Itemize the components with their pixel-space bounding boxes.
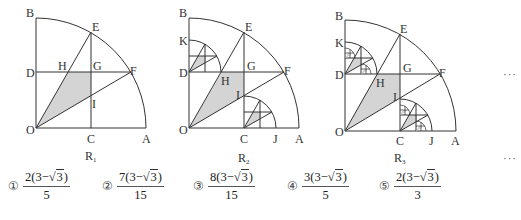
point-label-g: G [247, 59, 256, 73]
choice-2[interactable]: ② 7(3−√3) 15 [102, 170, 164, 203]
point-label-e: E [245, 20, 252, 34]
answer-choices: ① 2(3−√3) 5 ② 7(3−√3) 15 ③ 8(3−√3) 15 ④ … [0, 170, 521, 210]
sub-figure-c-r3 [400, 99, 432, 131]
choice-marker: ④ [287, 179, 298, 194]
point-label-g: G [403, 61, 412, 75]
choice-marker: ① [8, 179, 19, 194]
point-label-o: O [335, 125, 344, 139]
figures-canvas: B E D H G F I O C A R1 [0, 0, 521, 170]
caption-r1: R1 [85, 149, 97, 164]
point-label-d: D [26, 66, 35, 80]
caption-r3: R3 [394, 151, 406, 166]
sqrt-symbol: √3 [328, 170, 343, 185]
sqrt-symbol: √3 [420, 170, 435, 185]
choice-5[interactable]: ⑤ 2(3−√3) 3 [379, 170, 441, 203]
choice-marker: ③ [193, 179, 204, 194]
point-label-h: H [58, 59, 67, 73]
point-label-a: A [451, 134, 460, 148]
choice-3[interactable]: ③ 8(3−√3) 15 [193, 170, 255, 203]
ellipsis-caption-row: ··· [503, 152, 517, 164]
point-label-e: E [400, 22, 407, 36]
fraction: 8(3−√3) 15 [208, 170, 255, 203]
choice-4[interactable]: ④ 3(3−√3) 5 [287, 170, 349, 203]
fraction: 7(3−√3) 15 [117, 170, 164, 203]
sqrt-symbol: √3 [143, 170, 158, 185]
point-label-f: F [439, 66, 446, 80]
fraction: 3(3−√3) 5 [302, 170, 349, 203]
choice-marker: ② [102, 179, 113, 194]
sqrt-symbol: √3 [234, 170, 249, 185]
sub-figure-d-r2 [189, 40, 221, 72]
point-label-j: J [273, 132, 278, 146]
sqrt-symbol: √3 [49, 170, 64, 185]
point-label-k: K [335, 36, 344, 50]
point-label-c: C [240, 132, 248, 146]
fraction: 2(3−√3) 3 [394, 170, 441, 203]
point-label-d: D [179, 66, 188, 80]
point-label-a: A [142, 132, 151, 146]
point-label-f: F [130, 64, 137, 78]
choice-1[interactable]: ① 2(3−√3) 5 [8, 170, 70, 203]
point-label-d: D [335, 68, 344, 82]
point-label-i: I [393, 90, 397, 104]
sub-figure-d-r3 [345, 42, 377, 74]
ellipsis-figure-row: ··· [503, 68, 517, 80]
fraction: 2(3−√3) 5 [23, 170, 70, 203]
figure-r2 [189, 18, 299, 128]
point-label-c: C [87, 132, 95, 146]
point-label-j: J [429, 134, 434, 148]
point-label-h: H [221, 74, 230, 88]
point-label-o: O [179, 123, 188, 137]
caption-r2: R2 [238, 151, 250, 166]
point-label-b: B [335, 9, 343, 23]
point-label-a: A [295, 132, 304, 146]
point-label-i: I [92, 97, 96, 111]
point-label-e: E [92, 20, 99, 34]
sub-figure-c-r2 [244, 96, 276, 128]
point-label-g: G [93, 59, 102, 73]
point-label-k: K [179, 34, 188, 48]
choice-marker: ⑤ [379, 179, 390, 194]
point-label-c: C [396, 134, 404, 148]
point-label-h: H [376, 76, 385, 90]
point-label-i: I [236, 88, 240, 102]
point-label-o: O [26, 123, 35, 137]
point-label-f: F [284, 64, 291, 78]
point-label-b: B [26, 6, 34, 20]
point-label-b: B [179, 6, 187, 20]
